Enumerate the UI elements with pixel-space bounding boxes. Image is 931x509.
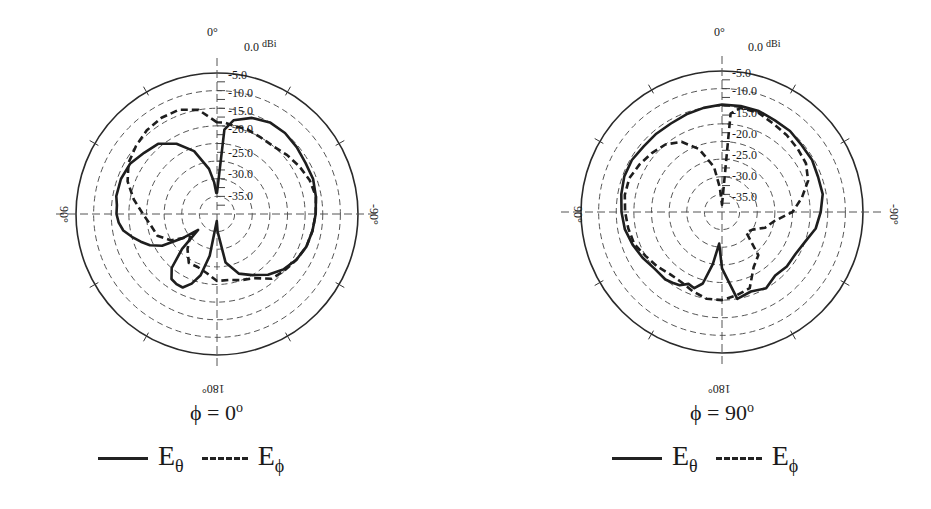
tick-0: 0.0 — [244, 40, 259, 54]
title-value: = 0 — [202, 400, 236, 425]
legend-e-phi: Eϕ — [772, 440, 799, 477]
tick-35: -35.0 — [732, 190, 757, 205]
legend-e-phi: Eϕ — [258, 440, 285, 477]
tick-15: -15.0 — [732, 106, 757, 121]
legend-e-theta: Eθ — [158, 440, 184, 477]
polar-plot-phi-0: 0° 0.0 dBi 90° -90° 180° -5.0 -10.0 -15.… — [0, 0, 465, 509]
legend-solid-swatch — [612, 457, 662, 460]
tick-5: -5.0 — [228, 68, 247, 83]
angle-label-bottom: 180° — [708, 381, 731, 396]
legend-solid-swatch — [98, 457, 148, 460]
angle-label-right: -90° — [886, 204, 901, 225]
tick-25: -25.0 — [228, 146, 253, 161]
angle-label-top: 0° — [207, 25, 218, 40]
plot-title: ϕ = 0o — [190, 400, 243, 426]
polar-plot-phi-90: 0° 0.0 dBi 90° -90° 180° -5.0 -10.0 -15.… — [465, 0, 930, 509]
legend: Eθ Eϕ — [612, 440, 798, 477]
tick-35: -35.0 — [228, 189, 253, 204]
angle-label-right: -90° — [366, 204, 381, 225]
angle-label-bottom: 180° — [202, 381, 225, 396]
legend: Eθ Eϕ — [98, 440, 284, 477]
tick-25: -25.0 — [732, 148, 757, 163]
angle-label-left: 90° — [56, 206, 71, 223]
legend-dashed-swatch — [716, 457, 762, 460]
angle-label-top: 0° — [714, 25, 725, 40]
legend-dashed-swatch — [202, 457, 248, 460]
phi-symbol: ϕ — [190, 400, 202, 425]
title-value: = 90 — [702, 400, 747, 425]
plot-title: ϕ = 90o — [690, 400, 754, 426]
tick-5: -5.0 — [732, 66, 751, 81]
tick-30: -30.0 — [228, 167, 253, 182]
degree-mark: o — [236, 400, 243, 415]
unit-label: 0.0 dBi — [244, 40, 276, 55]
angle-label-left: 90° — [570, 206, 585, 223]
unit-dbi: dBi — [262, 38, 276, 49]
unit-label: 0.0 dBi — [748, 40, 780, 55]
legend-e-theta: Eθ — [672, 440, 698, 477]
phi-symbol: ϕ — [690, 400, 702, 425]
tick-30: -30.0 — [732, 169, 757, 184]
tick-15: -15.0 — [228, 104, 253, 119]
polar-svg-right — [465, 0, 930, 509]
tick-0: 0.0 — [748, 40, 763, 54]
tick-10: -10.0 — [732, 84, 757, 99]
tick-20: -20.0 — [732, 127, 757, 142]
unit-dbi: dBi — [766, 38, 780, 49]
degree-mark: o — [747, 400, 754, 415]
tick-10: -10.0 — [228, 86, 253, 101]
tick-20: -20.0 — [228, 122, 253, 137]
